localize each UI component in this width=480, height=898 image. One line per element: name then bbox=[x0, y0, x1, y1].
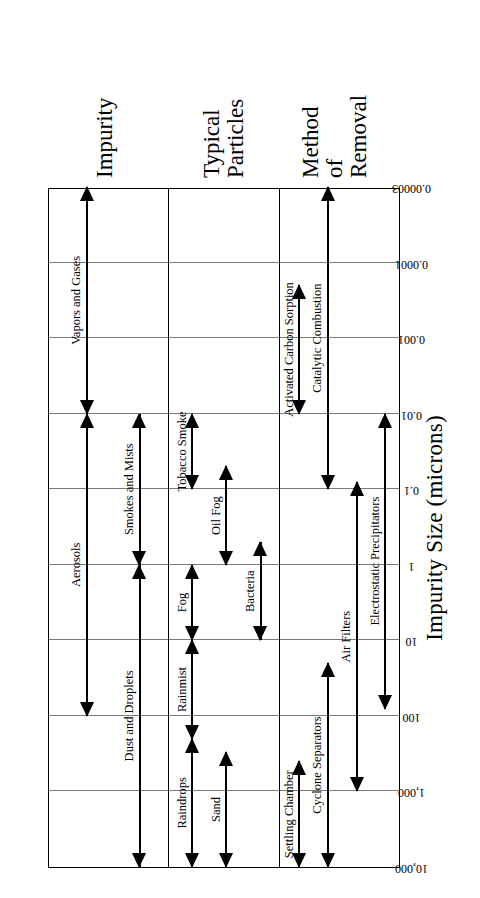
chart-plot-area: Vapors and GasesAerosolsSmokes and Mists… bbox=[48, 188, 400, 868]
arrow-label: Cyclone Separators bbox=[311, 716, 324, 814]
arrow-head-left bbox=[378, 695, 392, 710]
arrow-head-right bbox=[132, 413, 146, 428]
arrow-label: Air Filters bbox=[340, 611, 353, 663]
arrow-head-right bbox=[80, 186, 94, 201]
arrow-head-left bbox=[253, 626, 267, 641]
arrow-label: Bacteria bbox=[244, 570, 257, 612]
row-title-impurity: Impurity bbox=[93, 98, 117, 179]
arrow-head-left bbox=[321, 475, 335, 490]
arrow-head-left bbox=[321, 853, 335, 868]
axis-tick-label: 10 bbox=[406, 634, 418, 649]
axis-tick-label: 0.00003 bbox=[392, 181, 431, 196]
arrow-label: Catalytic Combustion bbox=[311, 283, 324, 392]
x-axis-title: Impurity Size (microns) bbox=[422, 415, 448, 641]
axis-tick-label: 0.1 bbox=[404, 483, 419, 498]
rotated-figure: Vapors and GasesAerosolsSmokes and Mists… bbox=[30, 30, 450, 868]
arrow-label: Smokes and Mists bbox=[123, 443, 136, 535]
axis-tick-label: 0.0001 bbox=[395, 256, 428, 271]
arrow-head-right bbox=[350, 481, 364, 496]
chart-band-method-of-removal: Activated Carbon SorptionCatalytic Combu… bbox=[279, 189, 401, 867]
arrow-shaft bbox=[139, 414, 141, 565]
arrow-shaft bbox=[327, 187, 329, 489]
chart-band-typical-particles: Tobacco SmokeOil FogBacteriaFogRainmistR… bbox=[168, 189, 279, 867]
row-title-method-line2: of bbox=[322, 159, 347, 178]
arrow-shaft bbox=[298, 285, 300, 413]
arrow-label: Electrostatic Precipitators bbox=[369, 497, 382, 626]
arrow-head-left bbox=[350, 777, 364, 792]
arrow-head-right bbox=[253, 541, 267, 556]
row-title-typical-line2: Particles bbox=[223, 99, 248, 178]
arrow-shaft bbox=[139, 565, 141, 867]
arrow-head-right bbox=[321, 662, 335, 677]
arrow-shaft bbox=[86, 414, 88, 716]
arrow-label: Oil Fog bbox=[210, 496, 223, 535]
axis-tick-label: 1 bbox=[409, 558, 415, 573]
arrow-head-right bbox=[219, 751, 233, 766]
row-title-typical-line1: Typical bbox=[199, 109, 224, 178]
arrow-label: Vapors and Gases bbox=[70, 256, 83, 345]
arrow-label: Settling Chamber bbox=[283, 770, 296, 858]
row-divider bbox=[168, 189, 169, 867]
arrow-head-right bbox=[185, 564, 199, 579]
row-title-column: Impurity TypicalParticles MethodofRemova… bbox=[48, 38, 400, 178]
arrow-label: Tobacco Smoke bbox=[176, 411, 189, 491]
arrow-head-left bbox=[132, 853, 146, 868]
arrow-head-left bbox=[80, 702, 94, 717]
arrow-head-left bbox=[219, 551, 233, 566]
arrow-label: Dust and Droplets bbox=[123, 670, 136, 761]
axis-tick-label: 0.01 bbox=[401, 407, 422, 422]
arrow-label: Activated Carbon Sorption bbox=[283, 282, 296, 417]
row-title-method-line3: Removal bbox=[346, 95, 371, 178]
row-divider bbox=[279, 189, 280, 867]
arrow-head-right bbox=[185, 639, 199, 654]
axis-tick-label: 10,000 bbox=[395, 861, 428, 876]
arrow-shaft bbox=[225, 752, 227, 867]
arrow-shaft bbox=[356, 482, 358, 792]
chart-band-impurity: Vapors and GasesAerosolsSmokes and Mists… bbox=[49, 189, 168, 867]
arrow-head-right bbox=[185, 738, 199, 753]
arrow-shaft bbox=[86, 187, 88, 414]
row-title-typical-particles: TypicalParticles bbox=[200, 99, 248, 178]
arrow-head-right bbox=[132, 564, 146, 579]
arrow-head-left bbox=[219, 853, 233, 868]
axis-tick-label: 0.001 bbox=[398, 332, 425, 347]
arrow-shaft bbox=[191, 739, 193, 867]
arrow-shaft bbox=[384, 414, 386, 709]
arrow-label: Aerosols bbox=[70, 543, 83, 587]
arrow-label: Fog bbox=[176, 593, 189, 612]
arrow-label: Sand bbox=[210, 797, 223, 822]
arrow-head-right bbox=[378, 413, 392, 428]
figure-stage: Vapors and GasesAerosolsSmokes and Mists… bbox=[0, 0, 480, 898]
arrow-label: Raindrops bbox=[176, 777, 189, 828]
axis-tick-label: 1,000 bbox=[398, 785, 425, 800]
arrow-head-right bbox=[219, 465, 233, 480]
arrow-head-right bbox=[321, 186, 335, 201]
arrow-shaft bbox=[298, 761, 300, 867]
arrow-shaft bbox=[327, 663, 329, 867]
row-title-method-line1: Method bbox=[298, 106, 323, 178]
arrow-head-left bbox=[185, 853, 199, 868]
arrow-label: Rainmist bbox=[176, 667, 189, 712]
arrow-head-right bbox=[80, 413, 94, 428]
axis-tick-label: 100 bbox=[403, 709, 421, 724]
row-title-method-of-removal: MethodofRemoval bbox=[299, 95, 371, 178]
